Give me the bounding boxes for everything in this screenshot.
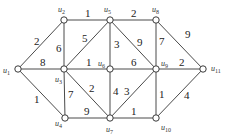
edge-weight-label: 3 [114, 38, 120, 50]
node-label-u8: u8 [152, 5, 159, 15]
edge-weight-label: 6 [131, 56, 137, 68]
edge-weight-label: 1 [34, 93, 40, 105]
edge-weight-label: 9 [84, 105, 90, 117]
node-u9 [153, 66, 159, 72]
edge-weight-label: 1 [85, 7, 91, 19]
node-label-u9: u9 [161, 59, 168, 69]
node-u8 [153, 17, 159, 23]
edge-weight-label: 2 [179, 56, 185, 68]
node-label-u6: u6 [98, 59, 105, 69]
edge-u3-u4 [64, 69, 65, 118]
node-label-u10: u10 [161, 123, 171, 133]
edge-weight-label: 8 [40, 56, 46, 68]
edge-weight-label: 2 [131, 7, 137, 19]
edge-weight-label: 9 [185, 28, 191, 40]
node-u6 [107, 66, 113, 72]
node-label-u4: u4 [55, 119, 62, 129]
node-label-u7: u7 [106, 125, 113, 135]
edge-weight-label: 6 [56, 42, 62, 54]
node-label-u5: u5 [104, 5, 111, 15]
edge-weight-label: 4 [184, 89, 190, 101]
node-u1 [15, 66, 21, 72]
edge-weight-label: 2 [89, 82, 95, 94]
node-u10 [153, 115, 159, 121]
weighted-graph-diagram: 2811651729239643179214 u1u2u3u4u5u6u7u8u… [0, 0, 230, 139]
node-label-u2: u2 [58, 5, 65, 15]
node-u2 [61, 17, 67, 23]
edge-weight-label: 7 [68, 88, 74, 100]
edge-weight-label: 9 [137, 36, 143, 48]
node-u3 [61, 66, 67, 72]
edge-weight-label: 2 [34, 35, 40, 47]
edge-weight-label: 3 [124, 85, 130, 97]
node-u7 [107, 115, 113, 121]
edge-weight-label: 4 [113, 85, 119, 97]
node-u5 [107, 17, 113, 23]
edge-weight-label: 5 [82, 32, 88, 44]
edge-weight-label: 7 [159, 35, 165, 47]
edge-weight-label: 1 [159, 88, 165, 100]
node-u4 [62, 115, 68, 121]
node-label-u3: u3 [55, 75, 62, 85]
edge-weight-label: 1 [131, 105, 137, 117]
node-label-u1: u1 [3, 66, 10, 76]
edge-weight-label: 1 [86, 56, 92, 68]
node-u11 [200, 66, 206, 72]
node-label-u11: u11 [211, 64, 221, 74]
